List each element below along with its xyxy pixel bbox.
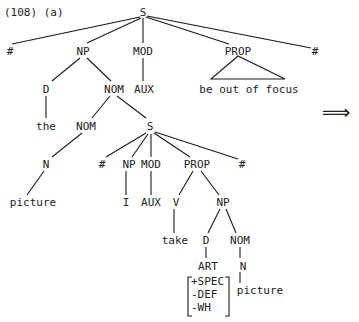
node-np-subject: NP xyxy=(76,45,90,58)
feature-wh: -WH xyxy=(191,301,211,314)
node-boundary-rel-left: # xyxy=(99,158,106,171)
node-d-object: D xyxy=(203,234,210,247)
word-picture-subject: picture xyxy=(10,196,56,209)
node-boundary-right: # xyxy=(312,45,319,58)
node-art: ART xyxy=(198,260,218,273)
feature-spec: +SPEC xyxy=(191,275,224,288)
node-d-subject: D xyxy=(43,83,50,96)
node-nom-object: NOM xyxy=(230,234,250,247)
tree-edges xyxy=(12,16,311,316)
node-np-relative: NP xyxy=(122,158,136,171)
node-s-root: S xyxy=(140,6,147,19)
feature-def: -DEF xyxy=(191,288,218,301)
node-mod-relative: MOD xyxy=(141,158,161,171)
word-picture-object: picture xyxy=(237,284,283,297)
node-boundary-left: # xyxy=(7,45,14,58)
node-aux-relative: AUX xyxy=(141,196,161,209)
node-nom-subject: NOM xyxy=(104,83,124,96)
node-boundary-rel-right: # xyxy=(239,158,246,171)
node-prop-relative: PROP xyxy=(184,158,211,171)
word-the: the xyxy=(36,120,56,133)
syntax-tree-diagram: (108) (a) S # NP MOD PROP # be out of fo… xyxy=(0,0,359,322)
word-i: I xyxy=(123,196,130,209)
example-number: (108) (a) xyxy=(4,6,64,19)
node-aux-main: AUX xyxy=(134,83,154,96)
node-np-object: NP xyxy=(216,196,230,209)
node-nom-inner: NOM xyxy=(76,120,96,133)
node-mod-main: MOD xyxy=(133,45,153,58)
prop-main-yield: be out of focus xyxy=(199,83,298,96)
node-v-relative: V xyxy=(173,196,180,209)
node-prop-main: PROP xyxy=(225,45,252,58)
word-take: take xyxy=(162,234,189,247)
node-n-object: N xyxy=(240,260,247,273)
node-n-subject: N xyxy=(43,158,50,171)
transformation-arrow-icon: ⟹ xyxy=(322,100,351,124)
node-s-relative: S xyxy=(147,120,154,133)
